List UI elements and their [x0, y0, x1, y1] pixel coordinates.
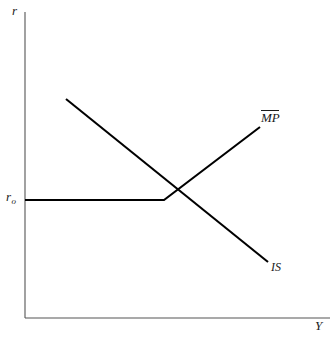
is-curve: [66, 99, 268, 262]
mp-curve: [25, 127, 260, 200]
economics-diagram: r Y ro MP IS: [0, 0, 334, 337]
y-axis-label: r: [12, 4, 17, 17]
r-zero-subscript: o: [11, 196, 16, 206]
plot-canvas: [0, 0, 334, 337]
x-axis-label: Y: [315, 319, 322, 332]
mp-curve-label-text: MP: [261, 110, 280, 124]
mp-curve-label: MP: [261, 110, 280, 124]
is-curve-label: IS: [271, 261, 281, 273]
r-zero-tick-label: ro: [6, 190, 16, 206]
